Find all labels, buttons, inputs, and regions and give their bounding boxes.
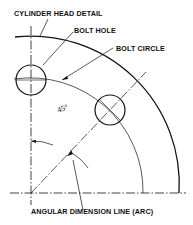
leader-cylinder-head [40,19,48,36]
cylinder-head-label: CYLINDER HEAD DETAIL [14,9,103,18]
bolt-hole-label: BOLT HOLE [74,26,116,35]
leader-bolt-circle [62,48,113,80]
angle-line [31,72,146,193]
angular-dimension-label: ANGULAR DIMENSION LINE (ARC) [31,207,153,216]
cylinder-head-diagram: CYLINDER HEAD DETAIL BOLT HOLE BOLT CIRC… [0,0,193,225]
leader-angular-dimension [73,160,83,210]
cylinder-head-arc [15,36,179,193]
bolt-circle-label: BOLT CIRCLE [116,44,165,53]
